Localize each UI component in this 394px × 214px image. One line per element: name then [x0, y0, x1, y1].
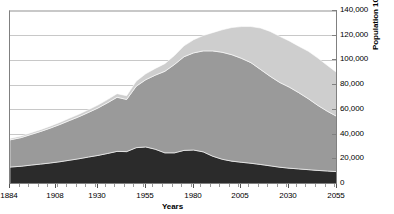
x-tick-label: 2055 — [322, 191, 350, 200]
y-tick-mark — [332, 84, 337, 85]
x-tick-label: 1930 — [83, 191, 111, 200]
x-minor-tick — [315, 184, 316, 187]
population-area-chart: 020,00040,00060,00080,000100,000120,0001… — [0, 0, 394, 214]
x-minor-tick — [305, 184, 306, 187]
x-tick-label: 2005 — [226, 191, 254, 200]
x-tick-mark — [288, 184, 289, 188]
x-tick-mark — [55, 184, 56, 188]
y-tick-mark — [332, 59, 337, 60]
x-minor-tick — [76, 184, 77, 187]
y-tick-label: 60,000 — [340, 105, 364, 113]
x-minor-tick — [248, 184, 249, 187]
x-minor-tick — [66, 184, 67, 187]
y-tick-label: 80,000 — [340, 80, 364, 88]
x-minor-tick — [210, 184, 211, 187]
x-minor-tick — [277, 184, 278, 187]
y-tick-label: 140,000 — [340, 6, 368, 14]
x-minor-tick — [85, 184, 86, 187]
x-tick-mark — [145, 184, 146, 188]
x-minor-tick — [219, 184, 220, 187]
x-minor-tick — [172, 184, 173, 187]
x-minor-tick — [47, 184, 48, 187]
y-tick-label: 0 — [340, 179, 344, 187]
x-tick-mark — [336, 184, 337, 188]
x-minor-tick — [95, 184, 96, 187]
x-minor-tick — [229, 184, 230, 187]
x-minor-tick — [181, 184, 182, 187]
y-tick-mark — [332, 35, 337, 36]
x-minor-tick — [152, 184, 153, 187]
x-tick-mark — [97, 184, 98, 188]
x-minor-tick — [19, 184, 20, 187]
x-tick-mark — [9, 184, 10, 188]
x-minor-tick — [325, 184, 326, 187]
y-tick-mark — [332, 134, 337, 135]
x-minor-tick — [296, 184, 297, 187]
x-minor-tick — [238, 184, 239, 187]
x-minor-tick — [133, 184, 134, 187]
x-minor-tick — [143, 184, 144, 187]
y-tick-mark — [332, 10, 337, 11]
x-tick-label: 1884 — [0, 191, 23, 200]
y-tick-mark — [332, 109, 337, 110]
y-tick-label: 20,000 — [340, 154, 364, 162]
x-tick-label: 1955 — [131, 191, 159, 200]
x-minor-tick — [162, 184, 163, 187]
x-minor-tick — [267, 184, 268, 187]
plot-svg — [10, 11, 337, 184]
x-tick-label: 1980 — [179, 191, 207, 200]
x-minor-tick — [286, 184, 287, 187]
y-tick-mark — [332, 158, 337, 159]
x-minor-tick — [258, 184, 259, 187]
x-minor-tick — [200, 184, 201, 187]
x-axis-title: Years — [0, 202, 345, 211]
x-minor-tick — [334, 184, 335, 187]
y-tick-label: 100,000 — [340, 55, 368, 63]
x-minor-tick — [191, 184, 192, 187]
x-minor-tick — [105, 184, 106, 187]
x-tick-mark — [240, 184, 241, 188]
stacked-area-series — [10, 27, 337, 184]
y-axis-title: Population 1000s — [371, 0, 380, 50]
y-tick-label: 40,000 — [340, 130, 364, 138]
x-minor-tick — [114, 184, 115, 187]
x-tick-mark — [193, 184, 194, 188]
y-tick-label: 120,000 — [340, 31, 368, 39]
x-tick-label: 1908 — [41, 191, 69, 200]
x-minor-tick — [28, 184, 29, 187]
plot-area — [9, 10, 337, 184]
x-minor-tick — [57, 184, 58, 187]
x-minor-tick — [38, 184, 39, 187]
x-minor-tick — [124, 184, 125, 187]
x-tick-label: 2030 — [274, 191, 302, 200]
